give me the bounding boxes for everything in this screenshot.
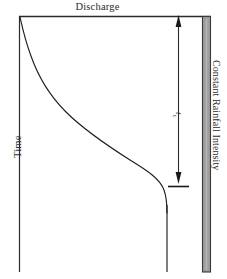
hydrograph-figure: Discharge Time Constant Rainfall Intensi… <box>0 0 227 279</box>
tc-label-subscript: c <box>172 115 179 118</box>
tc-arrow-head-down-icon <box>176 172 182 184</box>
tc-annotation-label: tc <box>172 112 184 118</box>
rainfall-intensity-label: Constant Rainfall Intensity <box>211 60 222 170</box>
plot-area <box>0 0 227 279</box>
time-axis-label: Time <box>12 135 23 158</box>
discharge-curve <box>20 17 167 213</box>
